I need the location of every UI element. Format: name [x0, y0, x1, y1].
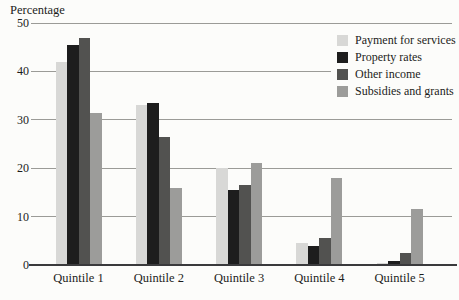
bar	[67, 45, 79, 265]
bar	[319, 238, 331, 265]
legend-item: Subsidies and grants	[331, 83, 458, 100]
y-tick-label: 20	[0, 160, 29, 176]
bar	[170, 188, 182, 265]
figure: Percentage 01020304050Quintile 1Quintile…	[0, 0, 459, 300]
x-tick-label: Quintile 4	[274, 271, 364, 286]
bar	[400, 253, 412, 265]
y-tick-label: 30	[0, 112, 29, 128]
y-tick-label: 10	[0, 209, 29, 225]
legend-swatch-icon	[337, 35, 348, 46]
legend-item: Other income	[331, 66, 458, 83]
legend-swatch-icon	[337, 69, 348, 80]
legend-item: Property rates	[331, 49, 458, 66]
legend-label: Subsidies and grants	[355, 84, 454, 99]
legend-item: Payment for services	[331, 32, 458, 49]
legend: Payment for servicesProperty ratesOther …	[331, 28, 458, 104]
bar	[90, 113, 102, 265]
legend-label: Other income	[355, 67, 421, 82]
bar	[239, 185, 251, 265]
bar	[136, 105, 148, 265]
bar	[56, 62, 68, 265]
bar	[331, 178, 343, 265]
bar	[228, 190, 240, 265]
bar	[296, 243, 308, 265]
x-tick-label: Quintile 1	[34, 271, 124, 286]
legend-swatch-icon	[337, 86, 348, 97]
legend-label: Payment for services	[355, 33, 456, 48]
legend-swatch-icon	[337, 52, 348, 63]
bar	[147, 103, 159, 265]
bar	[308, 246, 320, 265]
y-tick-label: 0	[0, 257, 29, 273]
bar	[159, 137, 171, 265]
bar	[79, 38, 91, 265]
x-axis-line	[29, 264, 457, 266]
gridline-50	[31, 23, 452, 24]
x-tick-label: Quintile 2	[114, 271, 204, 286]
x-tick-label: Quintile 5	[355, 271, 445, 286]
bar	[216, 168, 228, 265]
y-tick-label: 50	[0, 15, 29, 31]
bar	[251, 163, 263, 265]
x-tick-label: Quintile 3	[194, 271, 284, 286]
legend-label: Property rates	[355, 50, 422, 65]
y-tick-label: 40	[0, 63, 29, 79]
bar	[411, 209, 423, 265]
